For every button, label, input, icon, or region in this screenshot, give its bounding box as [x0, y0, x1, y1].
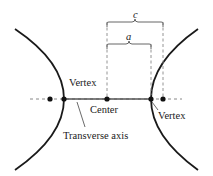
- label-a: a: [126, 31, 131, 42]
- label-c: c: [133, 9, 138, 20]
- brace-a: [107, 41, 151, 49]
- label-left-vertex: Vertex: [69, 77, 97, 88]
- label-transverse-axis: Transverse axis: [63, 130, 128, 141]
- left-focus-point: [47, 96, 52, 101]
- right-vertex-point: [148, 96, 153, 101]
- label-right-vertex: Vertex: [158, 110, 186, 121]
- right-focus-point: [160, 96, 165, 101]
- diagram-canvas: c a Vertex Center Transverse axis Vertex: [0, 0, 213, 176]
- transverse-axis-leader: [77, 102, 85, 127]
- hyperbola-diagram: c a Vertex Center Transverse axis Vertex: [0, 0, 213, 176]
- center-point: [104, 96, 109, 101]
- brace-c: [107, 19, 163, 27]
- left-vertex-point: [61, 96, 66, 101]
- label-center: Center: [90, 104, 118, 115]
- right-vertex-leader: [152, 102, 158, 110]
